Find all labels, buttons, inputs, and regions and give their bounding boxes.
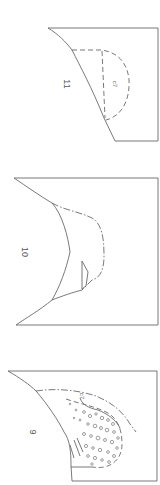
profile-9: 9 c7 [8,371,157,481]
profile-9-number: 9 [28,429,38,434]
profile-10-frame [14,178,158,325]
profile-11-layer-label: c7 [112,81,118,88]
profile-11-number: 11 [62,79,72,88]
profile-10-hatched-lens [82,261,88,289]
profile-9-pebble-fill [69,403,119,465]
profile-9-inner-boundary [80,398,120,428]
profile-10-number: 10 [20,247,30,257]
profile-11-ground-surface [48,28,115,141]
profile-9-ground-surface [8,371,72,481]
section-drawings: 11 c7 10 [0,0,160,485]
profile-9-frame [8,371,157,481]
profile-10: 10 [14,178,158,325]
profile-11: 11 c7 [48,28,158,141]
profile-11-pit-axis [102,51,105,118]
profile-9-striations [70,438,83,458]
profile-9-layer-label: c7 [79,393,85,400]
